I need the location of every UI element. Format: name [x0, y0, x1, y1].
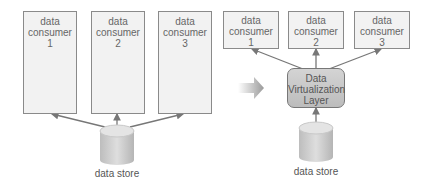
data-virtualization-layer: Data Virtualization Layer [287, 68, 345, 108]
left-consumer-2: data consumer 2 [91, 11, 145, 114]
consumer-number: 1 [24, 38, 76, 49]
consumer-number: 3 [355, 37, 409, 48]
right-database-icon [299, 122, 333, 162]
consumer-label: data [289, 15, 343, 26]
right-consumer-1: data consumer 1 [223, 11, 279, 49]
consumer-label: consumer [24, 27, 76, 38]
left-database-icon [100, 125, 134, 165]
transition-arrow-icon [238, 77, 264, 99]
consumer-number: 2 [92, 38, 144, 49]
left-store-label: data store [87, 168, 147, 179]
consumer-label: consumer [224, 26, 278, 37]
left-consumer-1: data consumer 1 [23, 11, 77, 114]
consumer-label: consumer [289, 26, 343, 37]
consumer-number: 1 [224, 37, 278, 48]
right-store-label: data store [286, 166, 346, 177]
consumer-label: consumer [159, 27, 211, 38]
layer-label: Data [288, 73, 344, 84]
consumer-label: consumer [355, 26, 409, 37]
consumer-label: data [159, 16, 211, 27]
consumer-number: 3 [159, 38, 211, 49]
consumer-label: data [355, 15, 409, 26]
consumer-number: 2 [289, 37, 343, 48]
consumer-label: consumer [92, 27, 144, 38]
consumer-label: data [224, 15, 278, 26]
right-consumer-2: data consumer 2 [288, 11, 344, 49]
consumer-label: data [92, 16, 144, 27]
layer-label: Layer [288, 95, 344, 106]
left-consumer-3: data consumer 3 [158, 11, 212, 114]
consumer-label: data [24, 16, 76, 27]
layer-label: Virtualization [288, 84, 344, 95]
right-consumer-3: data consumer 3 [354, 11, 410, 49]
